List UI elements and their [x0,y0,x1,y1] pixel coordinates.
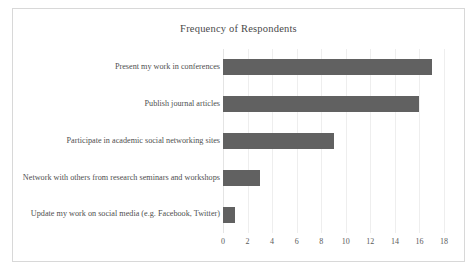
bar-row: Participate in academic social networkin… [223,123,444,160]
chart-title: Frequency of Respondents [13,23,464,34]
x-axis-tick-label: 0 [221,237,225,246]
gridline [444,49,445,233]
bar-row: Network with others from research semina… [223,159,444,196]
category-label: Network with others from research semina… [23,174,220,182]
x-axis-tick-label: 10 [342,237,350,246]
bar-row: Update my work on social media (e.g. Fac… [223,196,444,233]
chart-container: Frequency of Respondents Present my work… [12,8,465,262]
bar[interactable] [223,96,419,112]
x-axis-tick-label: 4 [270,237,274,246]
bar[interactable] [223,59,432,75]
x-axis: 024681012141618 [223,237,444,251]
category-label: Publish journal articles [145,100,221,108]
x-axis-tick-label: 8 [319,237,323,246]
plot-area: Present my work in conferencesPublish jo… [223,49,444,233]
x-axis-tick-label: 18 [440,237,448,246]
x-axis-tick-label: 2 [246,237,250,246]
bar[interactable] [223,207,235,223]
bar-row: Publish journal articles [223,86,444,123]
x-axis-tick-label: 14 [391,237,399,246]
category-label: Present my work in conferences [115,63,220,71]
x-axis-tick-label: 16 [415,237,423,246]
bar[interactable] [223,170,260,186]
x-axis-tick-label: 12 [366,237,374,246]
x-axis-tick-label: 6 [295,237,299,246]
bar[interactable] [223,133,334,149]
bar-row: Present my work in conferences [223,49,444,86]
category-label: Update my work on social media (e.g. Fac… [31,210,220,218]
category-label: Participate in academic social networkin… [67,137,220,145]
